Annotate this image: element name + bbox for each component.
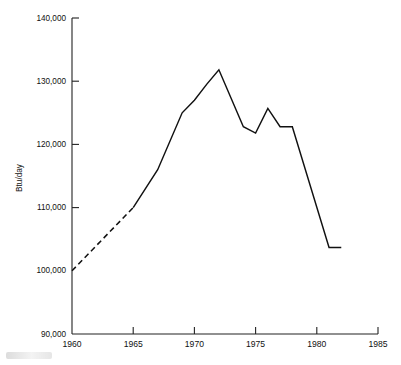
y-axis-tick-label: 130,000 <box>36 77 66 86</box>
chart-figure: 90,000100,000110,000120,000130,000140,00… <box>0 0 401 365</box>
x-axis-tick-label: 1980 <box>307 339 326 349</box>
x-axis-tick-label: 1975 <box>246 339 265 349</box>
x-axis-tick-label: 1970 <box>185 339 204 349</box>
y-axis-tick-label: 110,000 <box>37 203 66 212</box>
x-axis-tick-label: 1965 <box>124 339 143 349</box>
series-line-measured <box>133 70 341 248</box>
y-axis-tick-label: 90,000 <box>41 330 66 339</box>
y-axis-tick-label: 100,000 <box>36 266 66 275</box>
y-axis-title: Btu/day <box>15 163 24 192</box>
page-scan-artifact <box>6 352 52 359</box>
y-axis-tick-labels: 90,000100,000110,000120,000130,000140,00… <box>36 14 66 339</box>
y-axis-tick-label: 120,000 <box>36 140 66 149</box>
series-line-estimated <box>72 208 133 271</box>
line-chart: 90,000100,000110,000120,000130,000140,00… <box>0 0 401 365</box>
x-axis-ticks <box>133 327 378 334</box>
x-axis-tick-label: 1985 <box>368 339 387 349</box>
x-axis-tick-labels: 196019651970197519801985 <box>62 339 387 349</box>
x-axis-tick-label: 1960 <box>62 339 81 349</box>
y-axis-ticks <box>72 18 79 208</box>
y-axis-tick-label: 140,000 <box>36 14 66 23</box>
